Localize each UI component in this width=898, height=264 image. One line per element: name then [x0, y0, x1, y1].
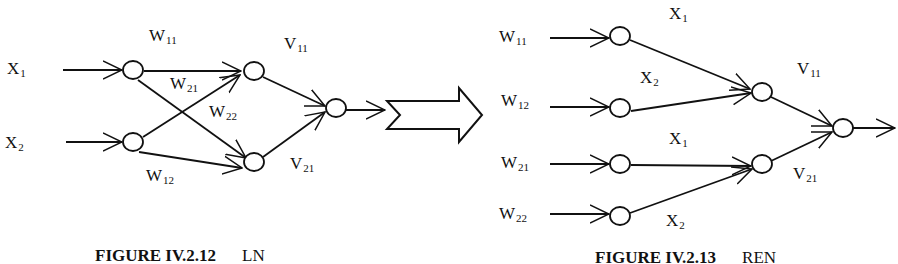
edge-v11: [263, 77, 325, 106]
edge-x2-top: [631, 93, 751, 111]
right-network: [550, 27, 895, 225]
caption-right-title: FIGURE IV.2.13: [595, 248, 716, 264]
node-hidden-2: [752, 155, 772, 173]
label-input-x1: X1: [7, 60, 26, 79]
label-edge-x1-bottom: X1: [669, 130, 688, 149]
label-input-x2: X2: [5, 134, 24, 153]
label-input-w11: W11: [499, 28, 527, 47]
node-input-3: [610, 155, 630, 173]
label-v11: V11: [284, 35, 308, 54]
label-input-w21: W21: [501, 154, 529, 173]
edge-v11: [771, 97, 832, 126]
caption-left-title: FIGURE IV.2.12: [95, 246, 216, 264]
node-input-2: [610, 99, 630, 117]
label-w11: W11: [149, 27, 177, 46]
label-w22: W22: [209, 103, 237, 122]
transform-arrow-icon: [387, 88, 482, 142]
node-hidden-1: [752, 83, 772, 101]
label-input-w22: W22: [499, 205, 527, 224]
diagram-canvas: [0, 0, 898, 264]
label-edge-x2-top: X2: [640, 69, 659, 88]
label-w12: W12: [146, 167, 174, 186]
node-input-1: [610, 27, 630, 45]
label-v11: V11: [797, 60, 821, 79]
node-hidden-1: [244, 62, 264, 80]
caption-left-tag: LN: [242, 246, 265, 264]
node-input-1: [123, 61, 143, 79]
caption-right: FIGURE IV.2.13REN: [595, 248, 776, 264]
label-input-w12: W12: [501, 92, 529, 111]
caption-left: FIGURE IV.2.12LN: [95, 246, 265, 264]
edge-v21: [263, 112, 325, 157]
edge-v21: [771, 132, 832, 161]
label-w21: W21: [170, 75, 198, 94]
caption-right-tag: REN: [742, 248, 776, 264]
node-output: [326, 99, 346, 117]
label-v21: V21: [793, 165, 817, 184]
node-input-2: [123, 133, 143, 151]
node-input-4: [610, 207, 630, 225]
node-hidden-2: [244, 153, 264, 171]
label-edge-x2-bottom: X2: [666, 212, 685, 231]
node-output: [833, 119, 853, 137]
edge-x2-bottom: [630, 169, 752, 213]
edge-x1-bottom: [631, 165, 751, 166]
label-v21: V21: [290, 155, 314, 174]
label-edge-x1-top: X1: [669, 5, 688, 24]
